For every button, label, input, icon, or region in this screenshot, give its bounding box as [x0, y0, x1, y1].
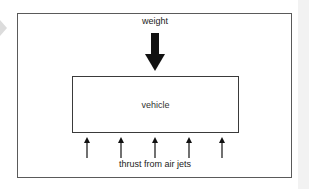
weight-arrow-icon — [145, 33, 165, 71]
thrust-arrow-icon — [186, 137, 192, 158]
thrust-arrow-icon — [84, 137, 90, 158]
thrust-label: thrust from air jets — [119, 159, 191, 169]
thrust-arrow-icon — [219, 137, 225, 158]
thrust-arrow-icon — [152, 137, 158, 158]
thrust-arrow-icon — [118, 137, 124, 158]
